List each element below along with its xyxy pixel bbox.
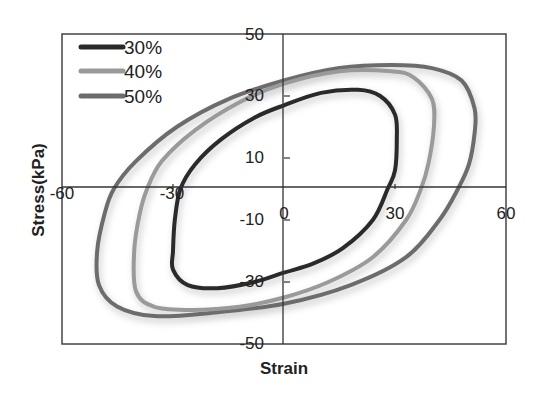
y-axis-title: Stress(kPa) bbox=[29, 143, 48, 237]
x-tick-label: 60 bbox=[497, 204, 516, 223]
x-axis-title: Strain bbox=[260, 359, 308, 378]
legend: 30% 40% 50% bbox=[81, 37, 162, 107]
y-tick-label: -30 bbox=[239, 272, 264, 291]
legend-label: 40% bbox=[124, 61, 162, 82]
x-tick-label: -30 bbox=[160, 184, 185, 203]
legend-label: 50% bbox=[124, 86, 162, 107]
chart-canvas: -60 -30 0 30 60 50 30 10 -10 -30 -50 Str… bbox=[0, 0, 542, 393]
y-tick-label: 50 bbox=[245, 25, 264, 44]
x-tick-label: 0 bbox=[279, 204, 288, 223]
y-tick-label: 30 bbox=[245, 86, 264, 105]
y-tick-label: 10 bbox=[245, 148, 264, 167]
x-tick-label: 30 bbox=[386, 204, 405, 223]
legend-label: 30% bbox=[124, 37, 162, 58]
y-tick-label: -10 bbox=[239, 210, 264, 229]
x-tick-label: -60 bbox=[50, 184, 75, 203]
y-tick-label: -50 bbox=[239, 334, 264, 353]
